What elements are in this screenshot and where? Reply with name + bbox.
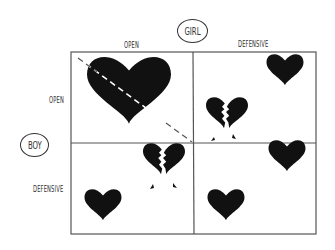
- matrix-graphic: [0, 0, 335, 250]
- small-heart-bottom-right-top: [269, 140, 306, 171]
- small-heart-bottom-left: [85, 189, 122, 220]
- small-heart-bottom-right-bottom: [208, 189, 245, 220]
- broken-heart-bottom-left: [143, 143, 185, 189]
- broken-heart-top-right: [206, 97, 248, 141]
- small-heart-top-right: [267, 54, 304, 85]
- large-heart: [87, 57, 171, 124]
